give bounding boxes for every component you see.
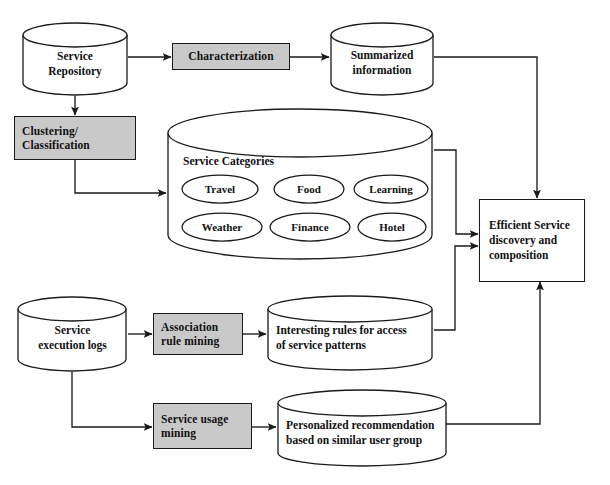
label-line: Interesting rules for access <box>276 323 425 338</box>
category-label: Travel <box>205 183 235 195</box>
category-finance: Finance <box>269 212 351 242</box>
node-service-usage-mining: Service usage mining <box>153 403 252 449</box>
label-line: Classification <box>22 138 90 152</box>
label-line: rule mining <box>161 334 219 348</box>
category-travel: Travel <box>181 174 259 204</box>
service-categories-title: Service Categories <box>183 155 274 167</box>
node-service-repository: Service Repository <box>22 22 128 96</box>
label-line: discovery and <box>489 233 557 248</box>
node-summarized-information: Summarized information <box>330 22 434 96</box>
label-line: Efficient Service <box>489 218 570 233</box>
label-line: Clustering/ <box>22 124 78 138</box>
label-line: Repository <box>48 64 102 79</box>
edge-logs-to-usage-mining <box>72 372 152 427</box>
diagram-canvas: Service Repository Characterization Summ… <box>0 0 610 485</box>
label-line: Service usage <box>161 412 228 426</box>
edge-recommendation-to-efficient <box>446 282 540 424</box>
category-label: Finance <box>291 221 328 233</box>
service-repository-label: Service Repository <box>22 44 128 84</box>
category-label: Learning <box>369 183 412 195</box>
node-association-rule-mining: Association rule mining <box>153 313 243 355</box>
label-line: mining <box>161 426 196 440</box>
node-efficient-service-discovery: Efficient Service discovery and composit… <box>479 199 585 282</box>
summarized-information-label: Summarized information <box>330 43 434 83</box>
category-label: Food <box>297 183 321 195</box>
edge-clustering-to-categories <box>75 160 166 193</box>
edge-categories-to-efficient <box>434 150 478 234</box>
node-interesting-rules: Interesting rules for access of service … <box>267 295 434 371</box>
node-service-execution-logs: Service execution logs <box>17 296 128 372</box>
category-learning: Learning <box>353 174 429 204</box>
label-line: of service patterns <box>276 338 425 353</box>
category-label: Weather <box>202 221 242 233</box>
label-line: Personalized recommendation <box>286 418 438 433</box>
category-weather: Weather <box>181 212 263 242</box>
node-service-categories: Service Categories Travel Food Learning <box>167 108 434 260</box>
service-execution-logs-label: Service execution logs <box>17 318 128 358</box>
label-line: Service <box>57 49 93 64</box>
label-line: Summarized <box>351 48 414 63</box>
label-line: Service <box>55 323 91 338</box>
edge-summarized-to-efficient <box>434 57 537 198</box>
label-line: composition <box>489 248 548 263</box>
category-hotel: Hotel <box>357 212 427 242</box>
category-food: Food <box>273 174 345 204</box>
node-personalized-recommendation: Personalized recommendation based on sim… <box>277 389 447 467</box>
label-line: Association <box>161 320 218 334</box>
label-line: information <box>353 63 412 78</box>
edge-rules-to-efficient <box>434 246 478 330</box>
label-line: execution logs <box>38 338 107 353</box>
personalized-recommendation-label: Personalized recommendation based on sim… <box>277 412 447 454</box>
node-characterization: Characterization <box>172 43 290 70</box>
category-label: Hotel <box>379 221 405 233</box>
characterization-label: Characterization <box>188 49 273 63</box>
node-clustering-classification: Clustering/ Classification <box>14 116 136 160</box>
interesting-rules-label: Interesting rules for access of service … <box>267 318 434 358</box>
label-line: based on similar user group <box>286 433 438 448</box>
